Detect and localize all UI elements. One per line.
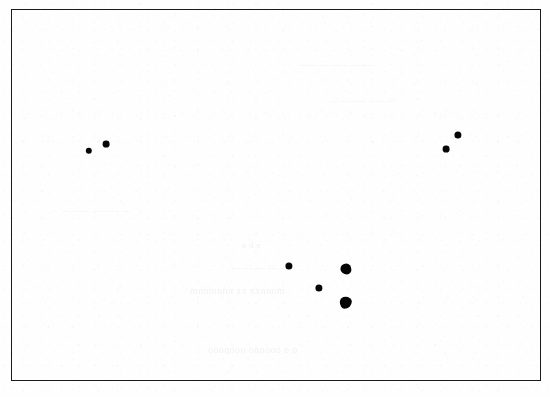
scatter-plot-figure: a d e— — — — —mmnnnnn xx xxnnnmooooooo o… <box>0 0 550 397</box>
scatter-point <box>103 141 110 148</box>
scatter-point <box>86 148 92 154</box>
scatter-point <box>285 262 292 269</box>
plot-frame-border <box>11 9 541 381</box>
plot-data-area <box>12 10 540 380</box>
scatter-point <box>315 284 322 291</box>
scatter-point <box>340 263 351 274</box>
scatter-point <box>454 131 461 138</box>
scatter-point <box>340 297 352 309</box>
scatter-point <box>443 146 450 153</box>
